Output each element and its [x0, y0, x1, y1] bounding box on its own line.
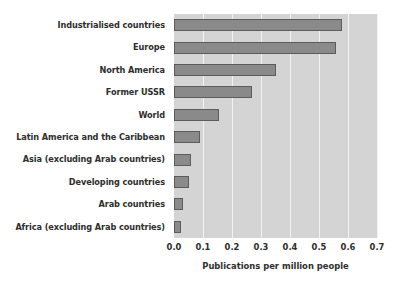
category-label: Latin America and the Caribbean — [16, 133, 165, 141]
category-label: Former USSR — [106, 88, 165, 96]
category-label: Industrialised countries — [58, 21, 165, 29]
category-label: Africa (excluding Arab countries) — [15, 223, 165, 231]
bar-row — [174, 14, 377, 36]
category-axis-labels: Industrialised countriesEuropeNorth Amer… — [0, 14, 170, 238]
category-label: Asia (excluding Arab countries) — [23, 155, 165, 163]
category-label-row: Africa (excluding Arab countries) — [0, 216, 170, 238]
bar-row — [174, 193, 377, 215]
bar-row — [174, 148, 377, 170]
x-axis-ticks: 0.00.10.20.30.40.50.60.7 — [174, 243, 377, 257]
bar-chart: Industrialised countriesEuropeNorth Amer… — [0, 0, 403, 294]
bar — [174, 131, 200, 143]
x-axis-tick-label: 0.5 — [312, 243, 327, 251]
bar-row — [174, 104, 377, 126]
bar-row — [174, 81, 377, 103]
bar-row — [174, 126, 377, 148]
category-label-row: World — [0, 104, 170, 126]
bar — [174, 42, 336, 54]
bar-series — [174, 14, 377, 238]
bar — [174, 19, 342, 31]
category-label-row: Asia (excluding Arab countries) — [0, 148, 170, 170]
x-axis-tick-label: 0.1 — [196, 243, 211, 251]
category-label-row: North America — [0, 59, 170, 81]
x-axis-tick-label: 0.7 — [370, 243, 385, 251]
category-label-row: Industrialised countries — [0, 14, 170, 36]
category-label-row: Europe — [0, 36, 170, 58]
bar — [174, 176, 189, 188]
bar — [174, 86, 252, 98]
x-axis-title: Publications per million people — [174, 262, 377, 270]
bar — [174, 221, 181, 233]
x-axis-tick-label: 0.0 — [167, 243, 182, 251]
category-label-row: Developing countries — [0, 171, 170, 193]
category-label: Arab countries — [98, 200, 165, 208]
gridline — [377, 14, 378, 238]
bar-row — [174, 216, 377, 238]
x-axis-tick-label: 0.6 — [341, 243, 356, 251]
category-label: Europe — [133, 43, 165, 51]
bar-row — [174, 171, 377, 193]
bar-row — [174, 36, 377, 58]
category-label-row: Latin America and the Caribbean — [0, 126, 170, 148]
category-label: North America — [100, 66, 165, 74]
bar — [174, 198, 183, 210]
category-label-row: Former USSR — [0, 81, 170, 103]
category-label-row: Arab countries — [0, 193, 170, 215]
x-axis-tick-label: 0.3 — [254, 243, 269, 251]
bar — [174, 64, 276, 76]
bar-row — [174, 59, 377, 81]
x-axis-tick-label: 0.4 — [283, 243, 298, 251]
category-label: World — [138, 111, 165, 119]
bar — [174, 109, 219, 121]
plot-area — [174, 14, 377, 238]
x-axis-tick-label: 0.2 — [225, 243, 240, 251]
category-label: Developing countries — [69, 178, 165, 186]
bar — [174, 154, 191, 166]
